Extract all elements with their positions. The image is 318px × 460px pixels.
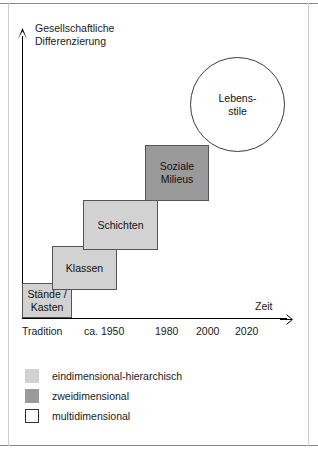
tick-label-2020: 2020 [235,325,258,337]
circle-lebensstile: Lebens- stile [190,57,285,152]
figure-border-left [8,3,9,446]
tick-label-ca-1950: ca. 1950 [84,325,124,337]
step-box-schichten: Schichten [83,200,158,250]
figure-border-bottom [0,445,318,446]
legend-item-zweidimensional: zweidimensional [25,386,182,406]
tick-label-tradition: Tradition [22,325,62,337]
legend: eindimensional-hierarchisch zweidimensio… [25,366,182,426]
step-box-klassen: Klassen [52,246,117,290]
legend-swatch-eindimensional [25,369,39,383]
legend-swatch-zweidimensional [25,389,39,403]
x-axis-label: Zeit [255,300,273,312]
figure-container: Gesellschaftliche Differenzierung Zeit S… [0,0,318,460]
figure-border-top [0,3,318,4]
y-axis-line [22,36,23,318]
tick-label-2000: 2000 [196,325,219,337]
legend-label-multidimensional: multidimensional [52,410,130,422]
arrow-up-icon [17,26,28,38]
legend-label-zweidimensional: zweidimensional [52,390,129,402]
x-axis-line [22,318,287,319]
arrow-right-icon [280,312,293,325]
legend-label-eindimensional: eindimensional-hierarchisch [52,370,182,382]
legend-item-multidimensional: multidimensional [25,406,182,426]
legend-swatch-multidimensional [25,409,39,423]
figure-border-right [308,3,309,446]
y-axis-label: Gesellschaftliche Differenzierung [35,22,114,48]
tick-label-1980: 1980 [155,325,178,337]
step-box-soziale-milieus: Soziale Milieus [145,145,209,201]
legend-item-eindimensional: eindimensional-hierarchisch [25,366,182,386]
